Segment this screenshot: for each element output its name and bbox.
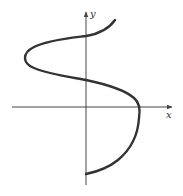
x-axis-label: x bbox=[166, 110, 172, 120]
plot-svg bbox=[0, 0, 183, 196]
y-axis-label: y bbox=[90, 9, 96, 19]
diagram-canvas: y x bbox=[0, 0, 183, 196]
s-curve bbox=[25, 20, 139, 174]
